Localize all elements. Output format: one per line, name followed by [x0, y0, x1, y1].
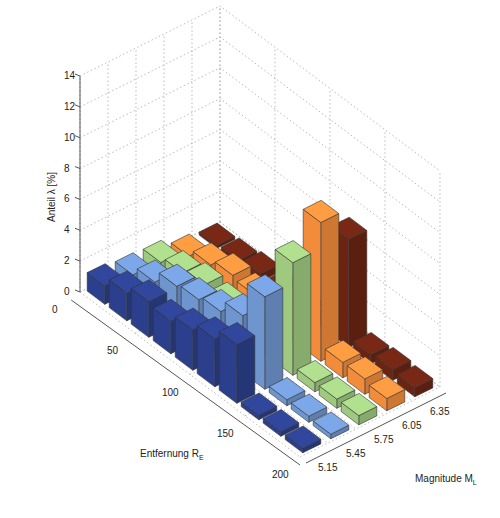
- distance-tick-label: 0: [52, 304, 58, 315]
- magnitude-axis-title: Magnitude ML: [415, 473, 477, 486]
- z-tick-label: 8: [64, 163, 70, 174]
- z-tick-label: 0: [64, 286, 70, 297]
- magnitude-tick-label: 5.75: [374, 434, 393, 445]
- z-tick-label: 2: [64, 255, 70, 266]
- z-tick-label: 10: [64, 132, 75, 143]
- magnitude-tick-label: 6.05: [402, 420, 421, 431]
- distance-tick-label: 200: [272, 469, 289, 480]
- distance-tick-label: 100: [162, 387, 179, 398]
- magnitude-tick-label: 5.45: [346, 448, 365, 459]
- magnitude-tick-label: 6.35: [430, 406, 449, 417]
- bars: [87, 200, 433, 452]
- magnitude-tick-label: 5.15: [318, 462, 337, 473]
- distance-tick-label: 50: [107, 345, 118, 356]
- distance-axis-title: Entfernung RE: [140, 448, 204, 461]
- distance-tick-label: 150: [217, 428, 234, 439]
- z-tick-label: 12: [64, 101, 75, 112]
- z-tick-label: 14: [64, 70, 75, 81]
- z-tick-label: 4: [64, 224, 70, 235]
- bar: [219, 323, 255, 404]
- z-tick-label: 6: [64, 193, 70, 204]
- z-axis-title: Anteil λ [%]: [46, 172, 57, 222]
